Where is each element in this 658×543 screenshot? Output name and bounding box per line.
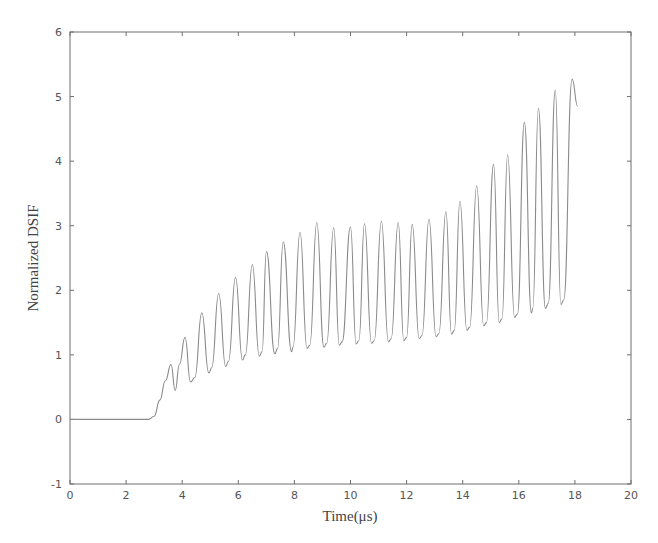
x-tick-label: 4 <box>179 489 186 502</box>
y-tick-label: 3 <box>55 220 62 233</box>
x-tick-label: 12 <box>400 489 414 502</box>
y-tick-label: 5 <box>55 91 62 104</box>
x-tick-label: 6 <box>235 489 242 502</box>
y-axis-label: Normalized DSIF <box>25 204 41 311</box>
x-tick-label: 20 <box>624 489 638 502</box>
y-tick-label: 2 <box>55 284 62 297</box>
x-tick-label: 0 <box>67 489 74 502</box>
x-tick-label: 14 <box>456 489 470 502</box>
y-tick-label: 4 <box>55 155 62 168</box>
x-tick-label: 8 <box>291 489 298 502</box>
x-tick-label: 18 <box>568 489 582 502</box>
x-tick-label: 10 <box>344 489 358 502</box>
x-tick-label: 16 <box>512 489 526 502</box>
y-tick-label: 1 <box>55 349 62 362</box>
y-tick-label: 0 <box>55 413 62 426</box>
x-axis-label: Time(μs) <box>323 508 378 525</box>
y-tick-label: 6 <box>55 26 62 39</box>
x-tick-label: 2 <box>123 489 130 502</box>
y-tick-label: -1 <box>51 478 62 491</box>
chart: 02468101214161820 -10123456 Time(μs) Nor… <box>0 0 658 543</box>
